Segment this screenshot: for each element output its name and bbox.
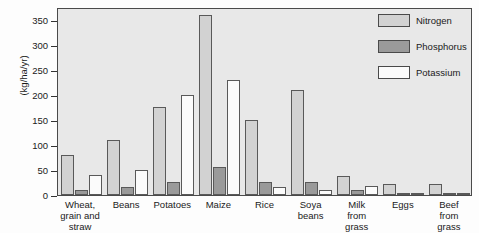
legend-swatch-potassium [378, 66, 410, 79]
bar-phosphorus [443, 193, 456, 195]
x-category-label-line: Beef [418, 199, 479, 210]
y-tick-label: 200 [8, 91, 48, 101]
bar-group [61, 9, 102, 195]
y-tick-label: 350 [8, 16, 48, 26]
bar-nitrogen [429, 184, 442, 195]
x-category-label-line: from [326, 210, 388, 221]
x-category-label-line: grain and [49, 210, 111, 221]
x-category-label-line: straw [49, 221, 111, 232]
bar-potassium [227, 80, 240, 195]
bar-phosphorus [75, 190, 88, 195]
legend-label: Phosphorus [416, 41, 467, 52]
bar-nitrogen [291, 90, 304, 195]
bar-nitrogen [245, 120, 258, 195]
bar-phosphorus [259, 182, 272, 195]
legend-label: Nitrogen [416, 15, 452, 26]
bar-potassium [319, 190, 332, 195]
legend-item-phosphorus[interactable]: Phosphorus [378, 40, 478, 56]
y-tick-label: 150 [8, 116, 48, 126]
legend: NitrogenPhosphorusPotassium [378, 14, 478, 92]
bar-potassium [411, 193, 424, 195]
bar-potassium [273, 187, 286, 195]
bar-nitrogen [153, 107, 166, 195]
bar-nitrogen [337, 176, 350, 195]
y-tick-label: 300 [8, 41, 48, 51]
bar-phosphorus [213, 167, 226, 195]
legend-swatch-nitrogen [378, 14, 410, 27]
bar-potassium [457, 193, 470, 196]
bar-group [337, 9, 378, 195]
bar-phosphorus [305, 182, 318, 195]
bar-nitrogen [107, 140, 120, 195]
y-tick-label: 250 [8, 66, 48, 76]
legend-swatch-phosphorus [378, 40, 410, 53]
bar-phosphorus [397, 193, 410, 195]
bar-nitrogen [199, 15, 212, 195]
bar-phosphorus [351, 190, 364, 195]
y-tick-mark [51, 196, 57, 197]
bar-group [291, 9, 332, 195]
x-category-label-line: grass [418, 221, 479, 232]
y-tick-label: 100 [8, 141, 48, 151]
bar-potassium [89, 175, 102, 195]
y-tick-label: 0 [8, 191, 48, 201]
bar-potassium [365, 186, 378, 195]
bar-group [199, 9, 240, 195]
bar-chart: (kg/ha/yr) 050100150200250300350 Wheat,g… [0, 0, 479, 233]
bar-group [245, 9, 286, 195]
y-tick-label: 50 [8, 166, 48, 176]
x-category-label: Beeffromgrass [418, 199, 479, 232]
legend-label: Potassium [416, 67, 460, 78]
legend-item-nitrogen[interactable]: Nitrogen [378, 14, 478, 30]
x-category-label-line: from [418, 210, 479, 221]
bar-phosphorus [121, 187, 134, 195]
bar-nitrogen [61, 155, 74, 195]
bar-potassium [181, 95, 194, 195]
bar-nitrogen [383, 184, 396, 195]
bar-phosphorus [167, 182, 180, 195]
bar-group [107, 9, 148, 195]
bar-potassium [135, 170, 148, 195]
bar-group [153, 9, 194, 195]
x-category-label-line: grass [326, 221, 388, 232]
legend-item-potassium[interactable]: Potassium [378, 66, 478, 82]
